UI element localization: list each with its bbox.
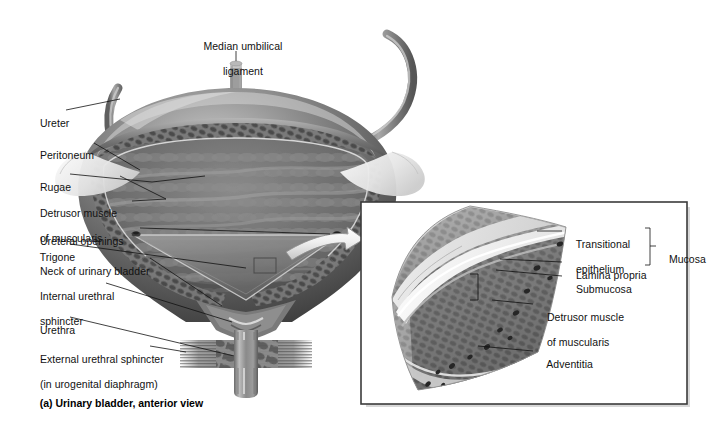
label-urethra-text: Urethra [40, 324, 75, 336]
label-median-umbilical-ligament-line1: Median umbilical [203, 40, 282, 52]
label-detrusor-muscle-line1: Detrusor muscle [40, 207, 117, 219]
label-adventitia: Adventitia [535, 345, 593, 383]
label-rugae-text: Rugae [40, 181, 71, 193]
ureter-right-art [360, 34, 413, 144]
label-internal-urethral-sphincter-line1: Internal urethral [40, 290, 114, 302]
label-median-umbilical-ligament-line2: ligament [223, 65, 263, 77]
label-peritoneum-text: Peritoneum [40, 149, 94, 161]
label-ureter-text: Ureter [40, 117, 69, 129]
label-submucosa-text: Submucosa [576, 283, 632, 295]
label-median-umbilical-ligament: Median umbilical ligament [188, 27, 286, 90]
label-transitional-epithelium-line1: Transitional [576, 238, 630, 250]
label-external-urethral-sphincter-line1: External urethral sphincter [40, 353, 164, 365]
figure-caption: (a) Urinary bladder, anterior view [28, 385, 203, 421]
figure-caption-text: (a) Urinary bladder, anterior view [40, 397, 203, 409]
label-adventitia-text: Adventitia [546, 358, 593, 370]
label-detrusor-muscle-inset-line1: Detrusor muscle [547, 311, 624, 323]
label-neck-of-urinary-bladder-text: Neck of urinary bladder [40, 265, 150, 277]
label-mucosa-text: Mucosa [669, 253, 706, 265]
urinary-bladder-figure: Median umbilical ligament Ureter Periton… [0, 0, 711, 435]
inset-panel [361, 200, 690, 410]
external-urethral-sphincter-art [180, 340, 312, 368]
label-mucosa: Mucosa [657, 240, 706, 278]
